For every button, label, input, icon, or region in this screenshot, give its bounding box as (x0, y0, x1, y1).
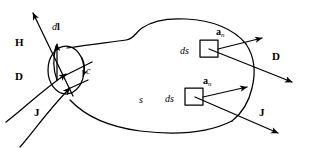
label-j-field-left: J (34, 107, 40, 118)
label-ds-lower: ds (165, 94, 174, 104)
diagram-canvas (0, 0, 309, 148)
vector-j-left-arrow (20, 88, 70, 147)
label-surface-s: s (139, 95, 143, 105)
ds-lower-square (185, 88, 203, 105)
vector-an-upper-arrow (218, 38, 262, 49)
surface-right-edge (232, 44, 254, 121)
surface-bottom-edge (70, 100, 232, 133)
label-j-field-right: J (259, 107, 265, 118)
label-an-upper: an (216, 27, 225, 37)
vector-j-right-arrow (195, 97, 278, 133)
label-dl-bold: l (57, 21, 60, 32)
label-an-lower-subscript: n (208, 80, 212, 88)
label-an-lower: an (203, 76, 212, 86)
label-an-upper-subscript: n (221, 31, 225, 39)
label-dl: dl (52, 22, 60, 32)
label-ds-upper: ds (180, 46, 189, 56)
em-surface-diagram: H dl D J c s ds ds an an D J (0, 0, 309, 148)
label-d-field-right: D (272, 51, 280, 62)
label-d-field-left: D (15, 71, 23, 82)
vector-an-lower-arrow (203, 87, 247, 97)
label-h-field: H (15, 37, 24, 48)
label-contour-c: c (86, 66, 90, 76)
contour-ellipse (48, 46, 84, 94)
